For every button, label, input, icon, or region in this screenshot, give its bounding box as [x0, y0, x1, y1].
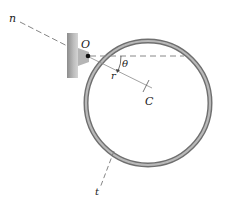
theta-arc	[118, 56, 121, 71]
label-C: C	[145, 95, 154, 108]
label-O: O	[81, 38, 90, 51]
label-r: r	[111, 70, 117, 81]
t-axis-line	[100, 151, 114, 188]
label-t: t	[95, 186, 100, 197]
label-n: n	[9, 12, 16, 25]
pendulum-ring-diagram: n O θ r C t	[0, 0, 228, 200]
label-theta: θ	[122, 58, 128, 69]
theta-arrowhead	[116, 69, 120, 73]
pivot-point	[86, 54, 91, 59]
wall-support	[67, 33, 78, 78]
